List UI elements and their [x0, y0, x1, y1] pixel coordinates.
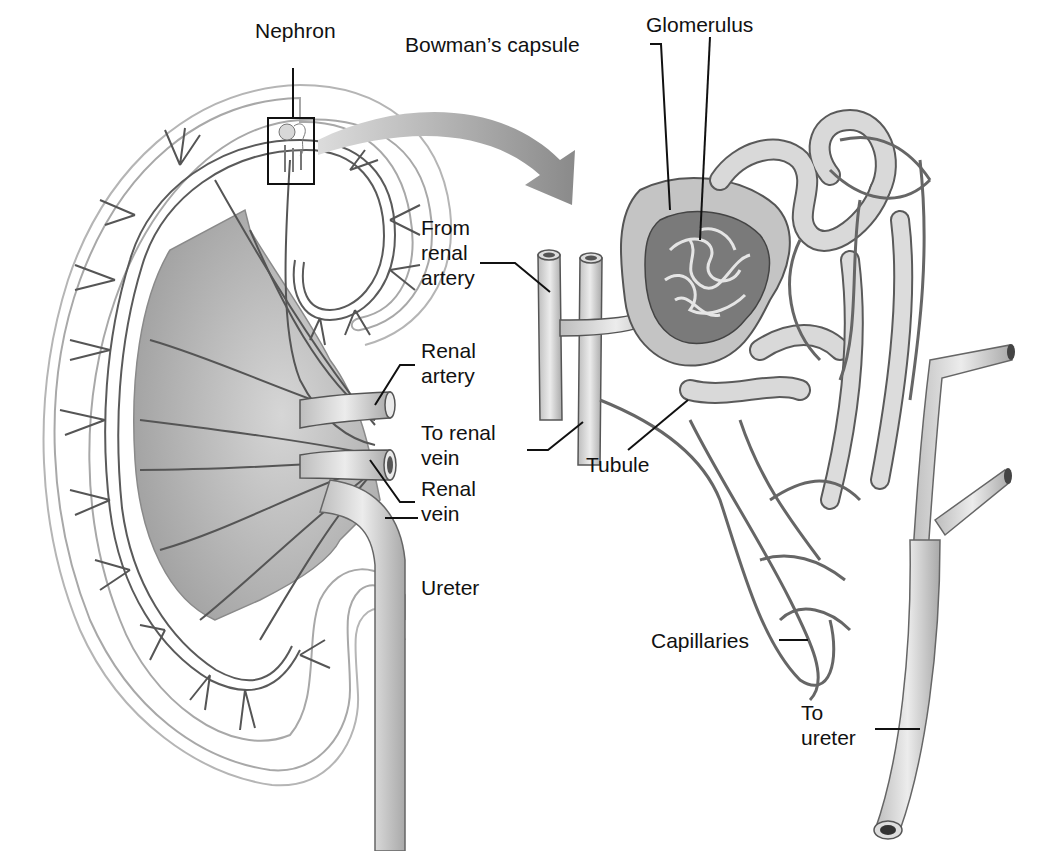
label-to-ureter: To ureter: [801, 700, 856, 750]
label-bowmans-capsule: Bowman’s capsule: [405, 32, 580, 57]
label-renal-vein: Renal vein: [421, 476, 476, 526]
label-tubule: Tubule: [586, 452, 649, 477]
leader-to-renal-vein: [527, 422, 583, 450]
nephron-detail: [538, 120, 1015, 839]
label-nephron: Nephron: [255, 18, 336, 43]
label-renal-artery: Renal artery: [421, 338, 476, 388]
label-ureter: Ureter: [421, 575, 479, 600]
nephron-miniature: [279, 124, 305, 172]
kidney-nephron-diagram: [0, 0, 1044, 851]
label-glomerulus: Glomerulus: [646, 12, 753, 37]
leader-tubule: [628, 400, 688, 450]
label-from-renal-artery: From renal artery: [421, 215, 475, 290]
label-capillaries: Capillaries: [651, 628, 749, 653]
kidney: [44, 85, 452, 851]
label-to-renal-vein: To renal vein: [421, 420, 496, 470]
